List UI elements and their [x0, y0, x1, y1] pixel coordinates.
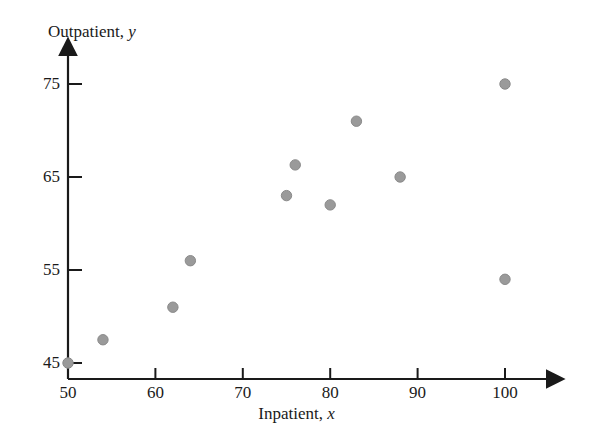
y-axis-label-variable: y — [128, 22, 136, 41]
y-axis-tick-label: 55 — [22, 260, 60, 280]
y-axis-ticks — [68, 84, 82, 363]
axes — [68, 54, 548, 379]
scatter-point — [168, 302, 178, 312]
y-axis-tick-label: 75 — [22, 74, 60, 94]
x-axis-label-text: Inpatient, — [258, 404, 323, 423]
x-axis-ticks — [68, 368, 505, 379]
y-axis-tick-label: 45 — [22, 353, 60, 373]
x-axis-tick-label: 70 — [234, 383, 251, 403]
scatter-point — [98, 335, 108, 345]
x-axis-tick-label: 60 — [147, 383, 164, 403]
scatter-point — [63, 358, 73, 368]
scatter-point — [395, 172, 405, 182]
x-axis-tick-label: 50 — [60, 383, 77, 403]
scatter-point — [185, 256, 195, 266]
y-axis-label: Outpatient, y — [48, 22, 136, 42]
x-axis-tick-label: 100 — [492, 383, 518, 403]
plot-canvas — [0, 0, 593, 441]
scatter-point — [351, 116, 361, 126]
scatter-point — [500, 274, 510, 284]
scatter-point — [281, 190, 291, 200]
y-axis-label-text: Outpatient, — [48, 22, 124, 41]
x-axis-tick-label: 90 — [409, 383, 426, 403]
scatter-point — [500, 79, 510, 89]
scatter-plot-figure: Outpatient, y Inpatient, x 5060708090100… — [0, 0, 593, 441]
scatter-point — [290, 160, 300, 170]
data-points — [63, 79, 510, 368]
x-axis-label: Inpatient, x — [0, 404, 593, 424]
x-axis-tick-label: 80 — [322, 383, 339, 403]
y-axis-tick-label: 65 — [22, 167, 60, 187]
scatter-point — [325, 200, 335, 210]
x-axis-label-variable: x — [327, 404, 335, 423]
